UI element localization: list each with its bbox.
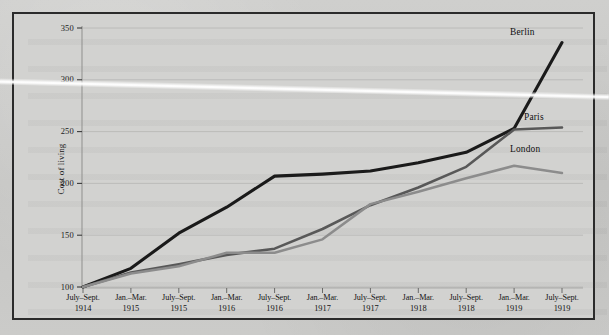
y-tick-label: 150 bbox=[35, 230, 74, 240]
line-chart-plot bbox=[12, 12, 595, 320]
series-line-paris bbox=[83, 127, 562, 287]
series-line-london bbox=[83, 166, 562, 287]
y-tick-label: 250 bbox=[35, 126, 74, 136]
series-label-london: London bbox=[510, 144, 540, 154]
series-label-berlin: Berlin bbox=[510, 27, 535, 37]
series-label-paris: Paris bbox=[524, 112, 544, 122]
y-tick-label: 350 bbox=[35, 23, 74, 33]
x-tick-label-period: July–Sept. bbox=[529, 293, 595, 304]
y-tick-label: 200 bbox=[35, 178, 74, 188]
y-tick-label: 100 bbox=[35, 282, 74, 292]
y-tick-label: 300 bbox=[35, 74, 74, 84]
x-tick-label-year: 1919 bbox=[529, 304, 595, 315]
series-line-berlin bbox=[83, 43, 562, 288]
x-tick-label: July–Sept.1919 bbox=[529, 293, 595, 314]
